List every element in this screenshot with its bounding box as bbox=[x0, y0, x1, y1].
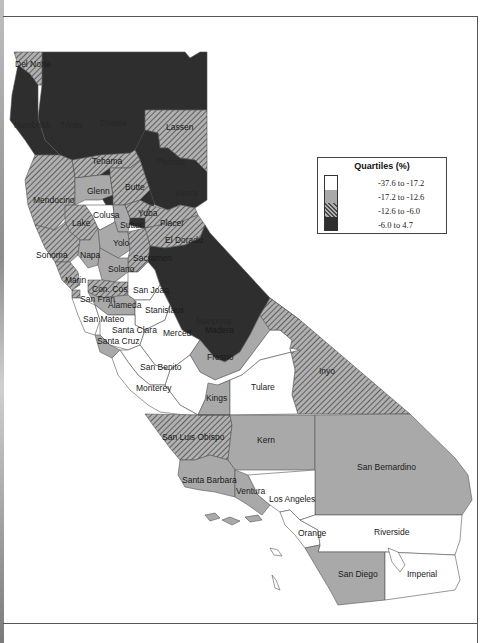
label-santa-clara: Santa Clara bbox=[112, 325, 157, 335]
legend-label-1: -37.6 to -17.2 bbox=[378, 178, 424, 188]
label-alameda: Alameda bbox=[108, 300, 142, 310]
label-shasta: Shasta bbox=[100, 118, 127, 128]
label-kern: Kern bbox=[257, 435, 275, 445]
channel-island bbox=[245, 515, 262, 522]
legend-label-3: -12.6 to -6.0 bbox=[378, 206, 420, 216]
label-madera: Madera bbox=[205, 325, 234, 335]
label-colusa: Colusa bbox=[93, 210, 120, 220]
label-marin: Marin bbox=[65, 275, 87, 285]
label-san-joaquin: San Joaq. bbox=[133, 285, 171, 295]
label-ventura: Ventura bbox=[236, 486, 266, 496]
label-merced: Merced bbox=[163, 328, 192, 338]
label-orange: Orange bbox=[298, 528, 327, 538]
california-county-map: Del Norte Humboldt Trinity Shasta Lassen… bbox=[0, 0, 496, 643]
label-santa-cruz: Santa Cruz bbox=[97, 336, 140, 346]
label-sonoma: Sonoma bbox=[36, 250, 68, 260]
channel-island bbox=[205, 513, 220, 521]
label-sutter: Sutter bbox=[120, 220, 143, 230]
legend-swatch-hatched bbox=[325, 203, 337, 217]
label-tulare: Tulare bbox=[251, 382, 275, 392]
label-trinity: Trinity bbox=[60, 120, 84, 130]
label-imperial: Imperial bbox=[407, 569, 437, 579]
label-sierra: Sierra bbox=[175, 188, 198, 198]
label-solano: Solano bbox=[108, 264, 135, 274]
legend-swatch-dark bbox=[325, 217, 337, 231]
label-yuba: Yuba bbox=[138, 208, 158, 218]
legend-title: Quartiles (%) bbox=[318, 161, 446, 171]
legend-label-2: -17.2 to -12.6 bbox=[378, 192, 424, 202]
label-los-angeles: Los Angeles bbox=[269, 494, 315, 504]
channel-island bbox=[272, 575, 280, 590]
label-san-luis-obispo: San Luis Obispo bbox=[162, 432, 225, 442]
label-contra-costa: Con. Cos bbox=[92, 284, 127, 294]
label-lassen: Lassen bbox=[166, 122, 194, 132]
label-sacramento: Sacramen bbox=[133, 253, 172, 263]
label-placer: Placer bbox=[160, 218, 184, 228]
label-butte: Butte bbox=[125, 182, 145, 192]
label-fresno: Fresno bbox=[207, 352, 234, 362]
label-yolo: Yolo bbox=[113, 238, 130, 248]
label-san-diego: San Diego bbox=[338, 569, 378, 579]
legend-label-4: -6.0 to 4.7 bbox=[378, 220, 413, 230]
legend-swatch-white bbox=[325, 176, 337, 190]
label-el-dorado: El Dorado bbox=[165, 235, 203, 245]
map-legend: Quartiles (%) -37.6 to -17.2 -17.2 to -1… bbox=[317, 157, 447, 234]
label-inyo: Inyo bbox=[319, 366, 335, 376]
label-napa: Napa bbox=[80, 250, 101, 260]
label-riverside: Riverside bbox=[374, 527, 410, 537]
label-humboldt: Humboldt bbox=[14, 120, 51, 130]
channel-island bbox=[222, 517, 240, 525]
label-kings: Kings bbox=[206, 393, 227, 403]
legend-swatch-light-gray bbox=[325, 190, 337, 204]
label-san-benito: San Benito bbox=[140, 362, 182, 372]
label-mendocino: Mendocino bbox=[33, 195, 75, 205]
label-plumas: Plumas bbox=[157, 157, 185, 167]
legend-swatches bbox=[324, 175, 338, 231]
label-lake: Lake bbox=[72, 218, 91, 228]
label-tehama: Tehama bbox=[92, 156, 123, 166]
label-san-mateo: San Mateo bbox=[83, 314, 124, 324]
label-stanislaus: Stanislaus bbox=[145, 305, 184, 315]
label-santa-barbara: Santa Barbara bbox=[182, 475, 237, 485]
county-san-francisco bbox=[72, 290, 80, 298]
label-monterey: Monterey bbox=[136, 383, 172, 393]
label-del-norte: Del Norte bbox=[15, 59, 51, 69]
channel-island bbox=[270, 548, 282, 556]
label-glenn: Glenn bbox=[87, 186, 110, 196]
label-san-bernardino: San Bernardino bbox=[357, 462, 416, 472]
